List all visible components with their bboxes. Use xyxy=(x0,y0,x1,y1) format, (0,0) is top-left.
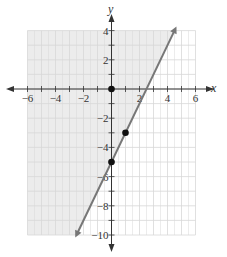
y-tick-label: −8 xyxy=(97,200,109,212)
y-tick-label: 4 xyxy=(103,25,109,37)
x-axis-left-arrow-icon xyxy=(6,86,14,92)
y-tick-label: −10 xyxy=(91,229,109,241)
x-tick-label: −6 xyxy=(22,92,34,104)
y-axis-label: y xyxy=(107,2,114,16)
y-tick-label: −2 xyxy=(97,112,109,124)
x-axis-label: x xyxy=(210,81,217,95)
x-tick-label: 4 xyxy=(165,92,171,104)
x-tick-label: 6 xyxy=(193,92,199,104)
plotted-point xyxy=(108,86,115,93)
x-tick-label: −2 xyxy=(78,92,90,104)
coordinate-graph: −6−4−224642−2−4−6−8−10 x y xyxy=(0,0,227,257)
y-axis-down-arrow-icon xyxy=(109,244,115,252)
y-tick-label: −4 xyxy=(97,141,109,153)
y-tick-label: 2 xyxy=(103,54,109,66)
x-tick-label: −4 xyxy=(50,92,62,104)
plotted-point xyxy=(122,130,129,137)
plotted-point xyxy=(108,159,115,166)
